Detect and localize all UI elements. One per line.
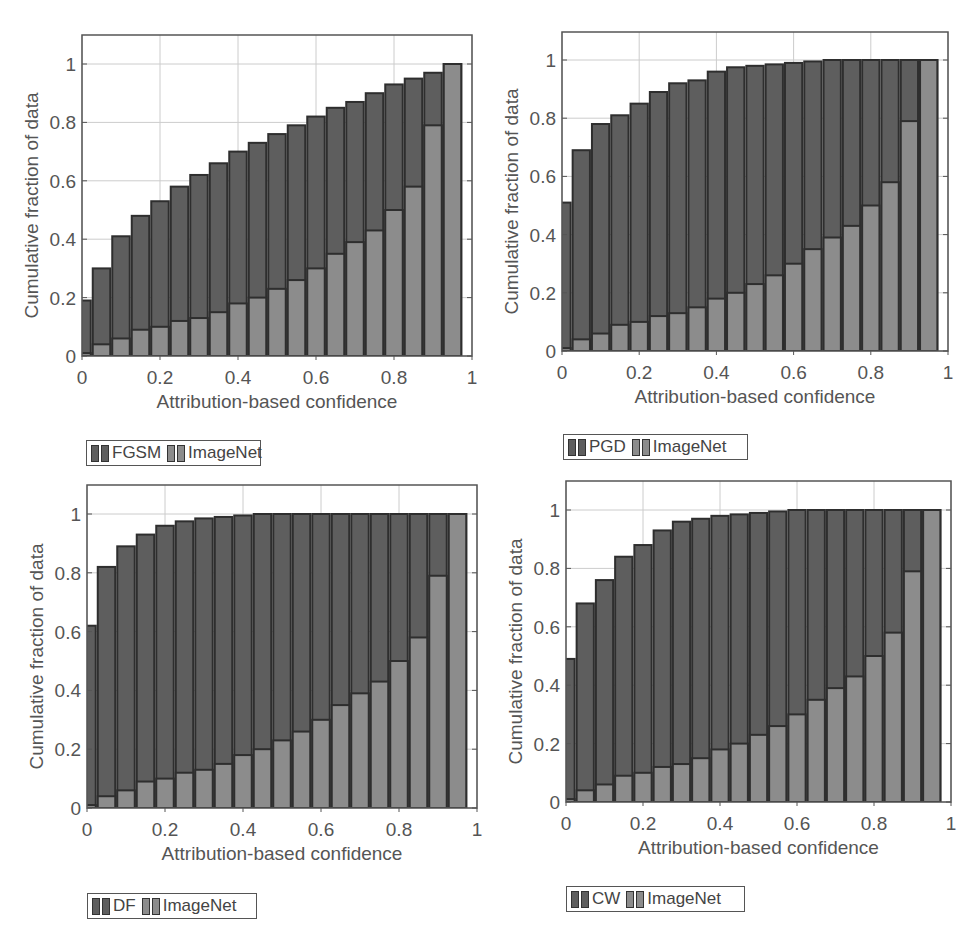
y-tick-label: 0.4 (534, 675, 561, 696)
x-tick-label: 0.8 (861, 813, 887, 834)
bar-cw (673, 522, 690, 802)
chart-cw-plot: 00.20.40.60.8100.20.40.60.81Attribution-… (0, 0, 975, 946)
bar-imagenet (615, 776, 632, 802)
bar-cw (634, 545, 651, 802)
bar-imagenet (808, 700, 825, 802)
bar-imagenet (634, 773, 651, 802)
bar-imagenet (827, 688, 844, 802)
bar-cw (577, 603, 594, 802)
x-tick-label: 1 (946, 813, 957, 834)
legend-cw: CW ImageNet (566, 886, 745, 912)
bar-imagenet (577, 790, 594, 802)
bar-imagenet (731, 744, 748, 802)
bars (557, 510, 940, 802)
legend-swatch-imagenet-icon (626, 891, 644, 908)
legend-label-adversarial: CW (592, 889, 620, 909)
y-tick-label: 0 (549, 792, 560, 813)
y-tick-label: 0.8 (534, 558, 560, 579)
bar-imagenet (904, 571, 921, 802)
x-tick-label: 0.2 (630, 813, 656, 834)
y-tick-label: 0.6 (534, 617, 560, 638)
bar-cw (615, 557, 632, 802)
bar-cw (596, 580, 613, 802)
x-tick-label: 0.4 (707, 813, 734, 834)
bar-imagenet (769, 726, 786, 802)
legend-swatch-adversarial-icon (571, 891, 589, 908)
x-tick-label: 0.6 (784, 813, 810, 834)
bar-imagenet (865, 656, 882, 802)
bar-imagenet (692, 758, 709, 802)
bar-imagenet (673, 764, 690, 802)
bar-imagenet (923, 510, 940, 802)
bar-imagenet (654, 767, 671, 802)
y-axis-label: Cumulative fraction of data (505, 538, 526, 764)
bar-imagenet (846, 676, 863, 802)
y-tick-label: 0.2 (534, 734, 560, 755)
bar-imagenet (788, 714, 805, 802)
bar-imagenet (711, 749, 728, 802)
x-axis-label: Attribution-based confidence (638, 837, 879, 858)
bar-imagenet (596, 784, 613, 802)
bar-imagenet (885, 633, 902, 802)
x-tick-label: 0 (561, 813, 572, 834)
bar-imagenet (750, 735, 767, 802)
legend-label-imagenet: ImageNet (647, 889, 721, 909)
y-tick-label: 1 (549, 500, 560, 521)
bar-cw (654, 530, 671, 802)
